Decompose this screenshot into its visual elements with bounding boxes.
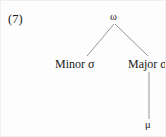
prosodic-word-node: ω	[110, 12, 117, 23]
example-number-label: (7)	[8, 13, 23, 26]
branch-omega-to-major-sigma	[115, 24, 148, 56]
branch-omega-to-minor-sigma	[87, 24, 114, 56]
minor-syllable-node: Minor σ	[55, 58, 94, 70]
mora-node: μ	[145, 120, 151, 131]
prosodic-tree-figure: (7) ω Minor σ Major σ μ	[0, 0, 166, 137]
major-syllable-node: Major σ	[128, 58, 166, 70]
